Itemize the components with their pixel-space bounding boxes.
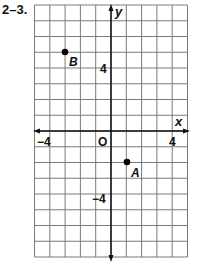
x-axis-label: x <box>174 114 183 129</box>
y-tick-label-neg4: −4 <box>92 192 106 206</box>
point-b-label: B <box>69 55 78 69</box>
y-axis-label: y <box>114 4 123 19</box>
point-b <box>62 49 69 56</box>
point-a-label: A <box>130 166 140 180</box>
axes <box>33 4 190 262</box>
origin-label: O <box>98 135 107 149</box>
y-tick-label-4: 4 <box>100 62 107 76</box>
y-axis-arrow-down-icon <box>109 255 114 262</box>
x-tick-label-neg4: −4 <box>37 135 51 149</box>
coordinate-plane: y x O −4 4 4 −4 B A <box>0 0 201 268</box>
x-tick-label-4: 4 <box>169 135 176 149</box>
x-axis-arrow-right-icon <box>183 129 190 134</box>
point-a <box>124 159 131 166</box>
